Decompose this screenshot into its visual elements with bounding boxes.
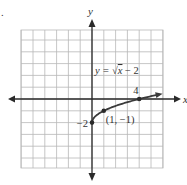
figure-marker: . <box>1 7 4 18</box>
y-axis-up-arrow <box>89 19 96 27</box>
points: −2(1, −1)4 <box>77 85 142 129</box>
function-label-y: y = <box>94 65 112 76</box>
point-label: 4 <box>133 85 139 96</box>
y-axis-down-arrow <box>89 173 96 181</box>
x-axis-label: x <box>182 93 187 105</box>
x-axis-right-arrow <box>174 96 181 103</box>
curve-arrowhead <box>155 92 162 98</box>
function-label: y = √x − 2 <box>94 65 139 76</box>
point-label: −2 <box>77 118 88 129</box>
graph: . −2(1, −1)4 y = √x − 2 x y <box>0 0 187 185</box>
point-marker <box>90 120 95 125</box>
point-label: (1, −1) <box>106 114 135 126</box>
y-axis-label: y <box>87 5 93 17</box>
function-label-constant: − 2 <box>122 65 138 76</box>
axes <box>8 19 181 181</box>
point-marker <box>137 97 142 102</box>
x-axis-left-arrow <box>8 96 15 103</box>
point-marker <box>102 109 107 114</box>
